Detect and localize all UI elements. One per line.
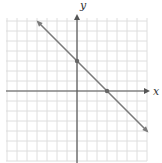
y-axis-arrow-icon xyxy=(74,14,80,20)
line-series xyxy=(37,21,149,133)
x-intercept-point xyxy=(105,89,109,93)
y-intercept-point xyxy=(75,59,79,63)
y-axis-label: y xyxy=(79,0,87,12)
coordinate-plane: x y xyxy=(0,0,162,163)
x-axis-label: x xyxy=(153,85,160,98)
series-line xyxy=(38,22,147,131)
